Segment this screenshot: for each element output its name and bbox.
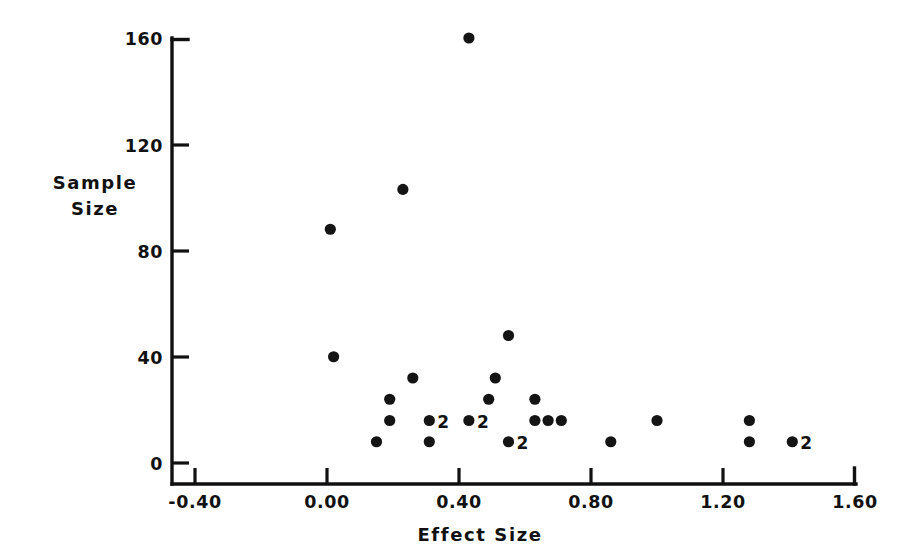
data-point [503, 330, 514, 341]
data-point [529, 415, 540, 426]
point-count-label: 2 [517, 433, 529, 453]
data-point [407, 372, 418, 383]
scatter-plot-figure: 160 120 80 40 0 -0.40 0.00 0.40 0.80 1.2… [0, 0, 911, 558]
y-tick-label-0: 0 [150, 454, 163, 474]
data-point [529, 394, 540, 405]
x-tick-label-040: 0.40 [436, 492, 482, 512]
data-points-layer: 2222 [325, 32, 812, 452]
y-tick-labels: 160 120 80 40 0 [125, 29, 163, 474]
x-tick-label-n040: -0.40 [168, 492, 221, 512]
data-point [384, 415, 395, 426]
y-tick-marks [172, 145, 189, 463]
data-point [424, 415, 435, 426]
y-tick-label-120: 120 [125, 136, 163, 156]
data-point [483, 394, 494, 405]
data-point [744, 436, 755, 447]
data-point [325, 224, 336, 235]
x-tick-labels: -0.40 0.00 0.40 0.80 1.20 1.60 [168, 492, 878, 512]
data-point [463, 32, 474, 43]
x-tick-marks [195, 468, 723, 484]
x-tick-label-160: 1.60 [832, 492, 878, 512]
data-point [463, 415, 474, 426]
data-point [787, 436, 798, 447]
y-tick-label-160: 160 [125, 29, 163, 49]
y-tick-label-40: 40 [137, 348, 163, 368]
data-point [543, 415, 554, 426]
y-tick-label-80: 80 [137, 242, 163, 262]
data-point [371, 436, 382, 447]
data-point [744, 415, 755, 426]
data-point [424, 436, 435, 447]
point-count-label: 2 [437, 412, 449, 432]
data-point [328, 351, 339, 362]
y-axis-title-line1: Sample [53, 172, 138, 193]
data-point [556, 415, 567, 426]
data-point [503, 436, 514, 447]
point-count-label: 2 [477, 412, 489, 432]
point-count-label: 2 [800, 433, 812, 453]
data-point [384, 394, 395, 405]
data-point [397, 184, 408, 195]
x-tick-label-000: 0.00 [304, 492, 350, 512]
data-point [605, 436, 616, 447]
data-point [490, 372, 501, 383]
plot-canvas: 160 120 80 40 0 -0.40 0.00 0.40 0.80 1.2… [0, 0, 911, 558]
x-axis-title: Effect Size [417, 524, 542, 545]
x-tick-label-080: 0.80 [568, 492, 614, 512]
data-point [651, 415, 662, 426]
y-axis-title-line2: Size [71, 198, 119, 219]
x-tick-label-120: 1.20 [700, 492, 746, 512]
